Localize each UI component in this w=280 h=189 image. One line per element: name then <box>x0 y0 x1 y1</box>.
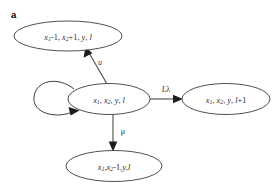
edge-label-l-lambda: Lλ <box>161 85 171 94</box>
state-node-l-plus-1[interactable]: x1, x2, y, l+1 <box>182 84 270 115</box>
panel-label: a <box>11 9 17 20</box>
arrow-mu-arrowhead <box>109 142 118 152</box>
transition-arrow-u <box>84 47 107 85</box>
state-node-current[interactable]: x1, x2, y, l <box>68 84 150 115</box>
arrow-l-lambda-arrowhead <box>173 95 183 104</box>
transition-arrow-l-lambda <box>150 95 183 104</box>
edge-label-mu: μ <box>121 127 126 136</box>
state-node-up-label: x1-1, x2+1, y, l <box>43 32 92 42</box>
figure-panel-a: a x1-1, x2+1, y, l <box>0 0 280 189</box>
transition-arrow-mu <box>109 114 118 152</box>
state-node-x1-minus-1-x2-plus-1[interactable]: x1-1, x2+1, y, l <box>14 21 122 51</box>
state-node-x2-minus-1[interactable]: x1,x2-1,y,l <box>66 151 162 182</box>
state-transition-diagram: a x1-1, x2+1, y, l <box>0 0 280 189</box>
edge-label-u: u <box>98 58 102 67</box>
